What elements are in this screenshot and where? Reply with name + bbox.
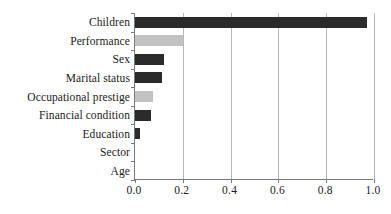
bar <box>135 128 140 139</box>
bar-row <box>135 69 374 88</box>
x-tick-mark <box>374 179 375 183</box>
gridline <box>374 13 375 179</box>
x-tick-label-0.0: 0.0 <box>127 184 142 196</box>
bar-row <box>135 87 374 106</box>
bar-row <box>135 106 374 125</box>
y-axis-label-sector: Sector <box>2 146 130 158</box>
y-axis-label-sex: Sex <box>2 53 130 65</box>
y-axis-label-education: Education <box>2 128 130 140</box>
x-tick-label-0.4: 0.4 <box>222 184 237 196</box>
bar-row <box>135 161 374 180</box>
x-tick-label-0.2: 0.2 <box>174 184 189 196</box>
bar <box>135 35 183 46</box>
y-axis-label-occupational-prestige: Occupational prestige <box>2 91 130 103</box>
y-axis-label-financial-condition: Financial condition <box>2 109 130 121</box>
bar-chart-screenshot: ChildrenPerformanceSexMarital statusOccu… <box>0 0 391 214</box>
bar-row <box>135 124 374 143</box>
y-axis-label-performance: Performance <box>2 35 130 47</box>
y-axis-label-age: Age <box>2 165 130 177</box>
bar <box>135 54 164 65</box>
y-axis-label-children: Children <box>2 16 130 28</box>
bar-row <box>135 50 374 69</box>
plot-area <box>134 13 373 180</box>
y-axis-category-labels: ChildrenPerformanceSexMarital statusOccu… <box>0 13 130 180</box>
bar <box>135 91 153 102</box>
bar <box>135 110 151 121</box>
bar <box>135 72 162 83</box>
bar-row <box>135 143 374 162</box>
y-axis-label-marital-status: Marital status <box>2 72 130 84</box>
bar <box>135 17 367 28</box>
x-tick-label-1.0: 1.0 <box>366 184 381 196</box>
x-tick-label-0.6: 0.6 <box>270 184 285 196</box>
x-tick-label-0.8: 0.8 <box>318 184 333 196</box>
x-axis-tick-labels: 0.00.20.40.60.81.0 <box>134 184 373 204</box>
bar-row <box>135 13 374 32</box>
bar-row <box>135 32 374 51</box>
